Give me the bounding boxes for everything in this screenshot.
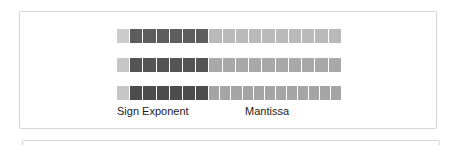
mantissa-bit-cell bbox=[262, 29, 274, 43]
field-labels: Sign Exponent Mantissa bbox=[20, 104, 436, 118]
exponent-bit-cell bbox=[196, 58, 208, 72]
mantissa-label: Mantissa bbox=[245, 104, 289, 118]
mantissa-bit-cell bbox=[243, 86, 253, 100]
mantissa-bit-cell bbox=[249, 58, 261, 72]
exponent-bit-cell bbox=[157, 58, 169, 72]
mantissa-bit-cell bbox=[209, 86, 219, 100]
sign-bit-cell bbox=[117, 86, 129, 100]
mantissa-bit-cell bbox=[254, 86, 264, 100]
sign-bit-cell bbox=[117, 58, 129, 72]
mantissa-bit-cell bbox=[265, 86, 275, 100]
format-row-2 bbox=[117, 58, 341, 72]
mantissa-bit-cell bbox=[249, 29, 261, 43]
mantissa-bit-cell bbox=[302, 29, 314, 43]
next-panel-top-edge bbox=[22, 140, 440, 145]
mantissa-bit-cell bbox=[209, 58, 221, 72]
exponent-bit-cell bbox=[157, 29, 169, 43]
exponent-bit-cell bbox=[196, 86, 208, 100]
exponent-bit-cell bbox=[130, 86, 142, 100]
mantissa-bit-cell bbox=[320, 86, 330, 100]
mantissa-bit-cell bbox=[298, 86, 308, 100]
mantissa-bit-cell bbox=[287, 86, 297, 100]
mantissa-bit-cell bbox=[276, 86, 286, 100]
mantissa-bit-cell bbox=[309, 86, 319, 100]
exponent-bit-cell bbox=[183, 86, 195, 100]
mantissa-bit-cell bbox=[236, 58, 248, 72]
mantissa-bit-cell bbox=[236, 29, 248, 43]
mantissa-bit-cell bbox=[209, 29, 221, 43]
mantissa-bit-cell bbox=[223, 58, 235, 72]
mantissa-bit-cell bbox=[289, 58, 301, 72]
exponent-bit-cell bbox=[170, 58, 182, 72]
sign-bit-cell bbox=[117, 29, 129, 43]
exponent-bit-cell bbox=[143, 58, 155, 72]
exponent-bit-cell bbox=[130, 58, 142, 72]
exponent-bit-cell bbox=[130, 29, 142, 43]
mantissa-bit-cell bbox=[220, 86, 230, 100]
format-row-3 bbox=[117, 86, 341, 100]
mantissa-bit-cell bbox=[331, 86, 341, 100]
exponent-bit-cell bbox=[170, 29, 182, 43]
exponent-bit-cell bbox=[143, 86, 155, 100]
mantissa-bit-cell bbox=[262, 58, 274, 72]
exponent-bit-cell bbox=[183, 58, 195, 72]
exponent-bit-cell bbox=[183, 29, 195, 43]
exponent-bit-cell bbox=[143, 29, 155, 43]
mantissa-bit-cell bbox=[276, 58, 288, 72]
mantissa-bit-cell bbox=[315, 58, 327, 72]
exponent-bit-cell bbox=[170, 86, 182, 100]
bit-rows bbox=[117, 29, 341, 100]
mantissa-bit-cell bbox=[302, 58, 314, 72]
mantissa-bit-cell bbox=[231, 86, 241, 100]
mantissa-bit-cell bbox=[329, 58, 341, 72]
mantissa-bit-cell bbox=[289, 29, 301, 43]
exponent-bit-cell bbox=[157, 86, 169, 100]
figure-panel: Sign Exponent Mantissa bbox=[19, 11, 437, 129]
mantissa-bit-cell bbox=[329, 29, 341, 43]
mantissa-bit-cell bbox=[276, 29, 288, 43]
mantissa-bit-cell bbox=[223, 29, 235, 43]
mantissa-bit-cell bbox=[315, 29, 327, 43]
sign-exponent-label: Sign Exponent bbox=[117, 104, 189, 118]
format-row-1 bbox=[117, 29, 341, 43]
exponent-bit-cell bbox=[196, 29, 208, 43]
